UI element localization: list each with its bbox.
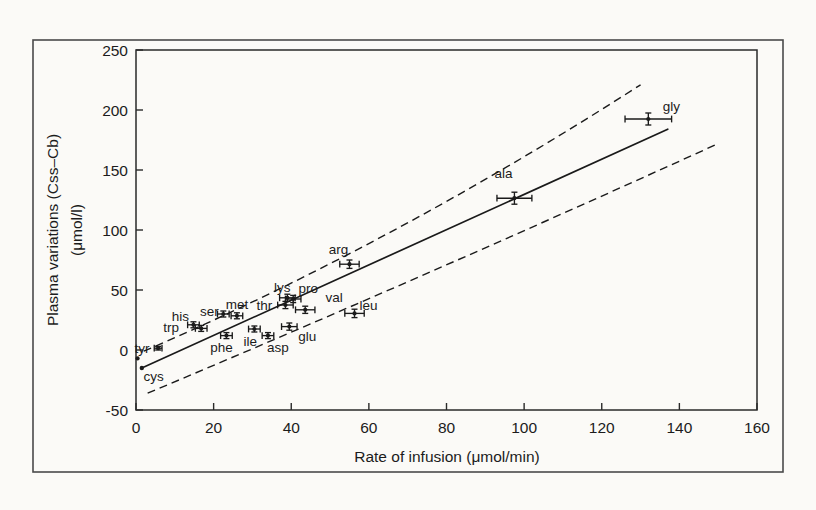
point-marker-arg xyxy=(347,262,351,266)
data-point-cys xyxy=(135,356,139,360)
point-label-glu: glu xyxy=(298,329,316,344)
data-point-glu xyxy=(282,323,298,330)
point-label-pro: pro xyxy=(298,281,318,296)
data-point-asp xyxy=(262,332,274,339)
point-marker-ile xyxy=(252,327,256,331)
point-label-ile: ile xyxy=(244,334,258,349)
point-label-cys: cys xyxy=(143,369,164,384)
data-point-met xyxy=(231,312,243,319)
lower-confidence-dashed-line xyxy=(148,144,719,394)
point-marker-ser xyxy=(221,312,225,316)
point-marker-glu xyxy=(287,325,291,329)
point-label-tyr: tyr xyxy=(135,341,151,356)
y-tick-label-50: 50 xyxy=(111,282,129,299)
figure-panel: 020406080100120140160-50050100150200250R… xyxy=(0,0,816,510)
data-point-trp xyxy=(195,325,207,332)
x-tick-label-0: 0 xyxy=(132,419,141,436)
point-label-arg: arg xyxy=(329,242,349,257)
y-tick-label-150: 150 xyxy=(102,162,128,179)
y-tick-label--50: -50 xyxy=(106,402,129,419)
y-tick-label-200: 200 xyxy=(102,102,128,119)
point-marker-ala xyxy=(512,196,516,200)
x-tick-label-20: 20 xyxy=(205,419,223,436)
point-label-asp: asp xyxy=(267,340,289,355)
point-marker-thr xyxy=(283,303,287,307)
point-label-val: val xyxy=(326,290,343,305)
y-axis-title-line1: Plasma variations (Css–Cb) xyxy=(44,134,61,326)
point-label-met: met xyxy=(226,297,249,312)
scatter-chart: 020406080100120140160-50050100150200250R… xyxy=(0,0,816,510)
data-point-gly xyxy=(625,113,672,125)
y-tick-label-0: 0 xyxy=(119,342,128,359)
point-label-trp: trp xyxy=(163,320,179,335)
point-marker-leu xyxy=(352,311,356,315)
point-marker-cys xyxy=(135,356,139,360)
data-point-val xyxy=(296,306,315,313)
x-tick-label-100: 100 xyxy=(511,419,537,436)
y-tick-label-250: 250 xyxy=(102,42,128,59)
x-tick-label-60: 60 xyxy=(360,419,378,436)
y-tick-label-100: 100 xyxy=(102,222,128,239)
x-tick-label-160: 160 xyxy=(744,419,770,436)
regression-line xyxy=(142,129,668,368)
point-label-leu: leu xyxy=(360,298,378,313)
point-marker-pro xyxy=(291,297,295,301)
point-marker-met xyxy=(235,314,239,318)
point-marker-trp xyxy=(199,326,203,330)
point-label-ser: ser xyxy=(200,304,219,319)
x-tick-label-40: 40 xyxy=(283,419,301,436)
x-tick-label-120: 120 xyxy=(589,419,615,436)
point-label-lys: lys xyxy=(274,280,291,295)
x-tick-label-80: 80 xyxy=(438,419,456,436)
point-label-thr: thr xyxy=(257,298,273,313)
point-marker-asp xyxy=(266,334,270,338)
y-axis-title-line2: (μmol/l) xyxy=(68,204,85,256)
data-point-arg xyxy=(340,260,359,268)
point-marker-val xyxy=(303,308,307,312)
point-label-ala: ala xyxy=(494,166,513,181)
point-marker-gly xyxy=(646,117,650,121)
data-point-phe xyxy=(221,332,233,339)
point-label-phe: phe xyxy=(210,340,233,355)
x-axis-title: Rate of infusion (μmol/min) xyxy=(354,448,540,465)
point-marker-tyr xyxy=(156,346,160,350)
point-marker-phe xyxy=(224,334,228,338)
point-label-gly: gly xyxy=(663,99,681,114)
x-tick-label-140: 140 xyxy=(666,419,692,436)
data-point-ile xyxy=(249,326,261,333)
data-point-tyr xyxy=(154,345,162,352)
